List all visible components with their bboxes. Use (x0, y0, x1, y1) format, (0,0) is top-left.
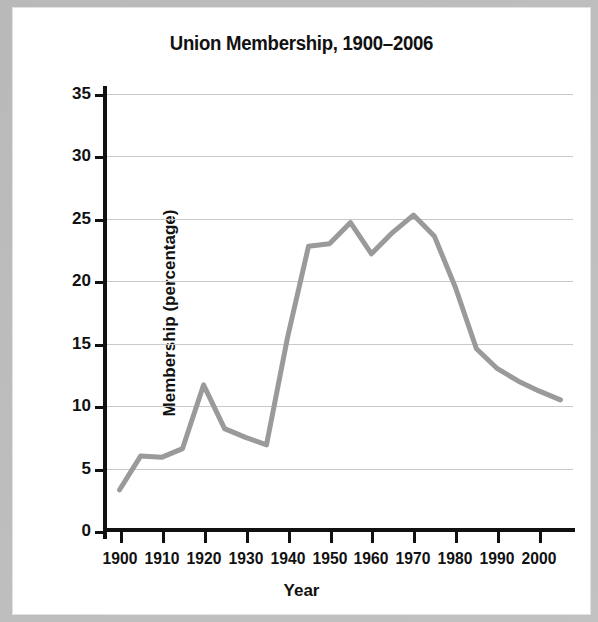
y-axis-tick-label: 0 (82, 521, 91, 541)
y-axis-tick (95, 469, 107, 472)
x-axis-tick (371, 531, 374, 543)
x-axis-tick (120, 531, 123, 543)
y-axis-tick (95, 156, 107, 159)
x-axis-tick (162, 531, 165, 543)
x-axis-tick-label: 1940 (270, 549, 305, 569)
x-axis-tick-label: 1980 (438, 549, 473, 569)
y-axis-tick-label: 5 (82, 459, 91, 479)
y-axis-tick-label: 30 (72, 146, 91, 166)
chart-title: Union Membership, 1900–2006 (33, 32, 570, 55)
x-axis-tick-label: 1910 (144, 549, 179, 569)
x-axis-tick (497, 531, 500, 543)
x-axis-tick-label: 1900 (102, 549, 137, 569)
figure-container: Union Membership, 1900–2006 Membership (… (0, 0, 598, 622)
line-series-union-membership (120, 215, 561, 490)
x-axis-tick (204, 531, 207, 543)
x-axis-tick-label: 1930 (228, 549, 263, 569)
x-axis-tick-label: 1970 (396, 549, 431, 569)
data-series-layer (107, 94, 573, 531)
x-axis-tick-label: 1960 (354, 549, 389, 569)
y-axis-tick (95, 344, 107, 347)
x-axis-tick (539, 531, 542, 543)
y-axis-tick (95, 531, 107, 534)
y-axis-tick (95, 406, 107, 409)
y-axis-tick-label: 15 (72, 334, 91, 354)
y-axis-tick-label: 10 (72, 396, 91, 416)
y-axis-tick-label: 25 (72, 209, 91, 229)
x-axis-tick-label: 1920 (186, 549, 221, 569)
x-axis-tick (246, 531, 249, 543)
y-axis-tick (95, 219, 107, 222)
chart-card: Union Membership, 1900–2006 Membership (… (13, 8, 590, 614)
y-axis-tick (95, 94, 107, 97)
y-axis-tick-label: 20 (72, 271, 91, 291)
x-axis-tick-label: 2000 (522, 549, 557, 569)
x-axis-tick (413, 531, 416, 543)
x-axis-tick-label: 1990 (480, 549, 515, 569)
y-axis-tick (95, 281, 107, 284)
x-axis-tick (455, 531, 458, 543)
x-axis-tick (288, 531, 291, 543)
plot-area: Membership (percentage) 05101520253035 1… (107, 94, 573, 531)
x-axis-tick (330, 531, 333, 543)
x-axis-tick-label: 1950 (312, 549, 347, 569)
y-axis-tick-label: 35 (72, 84, 91, 104)
x-axis-title: Year (13, 581, 590, 601)
